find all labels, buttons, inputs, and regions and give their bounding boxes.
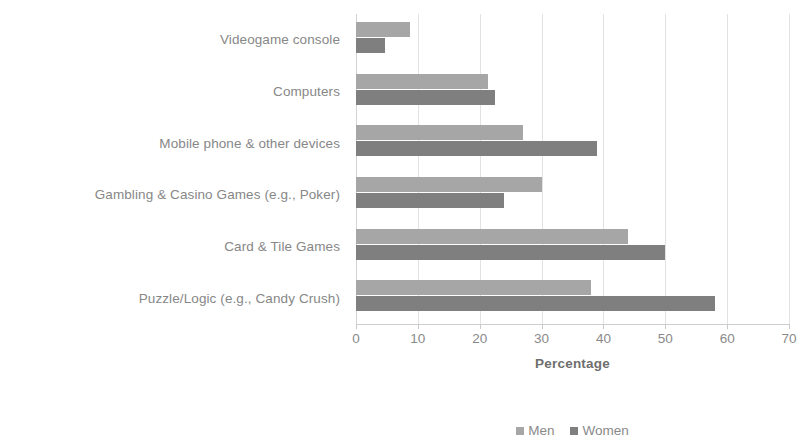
bar-group	[356, 14, 789, 66]
bar-group	[356, 66, 789, 118]
gridline-70	[789, 14, 790, 324]
bar-men	[356, 74, 488, 89]
x-tick-label: 30	[522, 331, 562, 346]
x-axis-title: Percentage	[356, 356, 789, 371]
legend-item[interactable]: Men	[516, 423, 554, 438]
tick-mark-60	[727, 324, 728, 329]
bar-group	[356, 272, 789, 324]
bar-group	[356, 221, 789, 273]
x-axis-line	[356, 324, 789, 325]
x-tick-label: 60	[707, 331, 747, 346]
bar-men	[356, 229, 628, 244]
x-tick-label: 20	[460, 331, 500, 346]
tick-mark-70	[789, 324, 790, 329]
category-label: Gambling & Casino Games (e.g., Poker)	[95, 169, 340, 221]
tick-mark-40	[603, 324, 604, 329]
bar-women	[356, 141, 597, 156]
tick-mark-20	[480, 324, 481, 329]
bar-men	[356, 280, 591, 295]
x-tick-label: 0	[336, 331, 376, 346]
x-tick-label: 70	[769, 331, 803, 346]
category-label: Mobile phone & other devices	[159, 117, 340, 169]
tick-mark-30	[542, 324, 543, 329]
legend-label: Women	[582, 423, 628, 438]
bar-women	[356, 38, 385, 53]
legend-swatch-icon	[570, 427, 578, 435]
category-label: Puzzle/Logic (e.g., Candy Crush)	[139, 272, 340, 324]
bar-men	[356, 22, 410, 37]
category-label: Card & Tile Games	[224, 221, 340, 273]
bar-groups	[356, 14, 789, 324]
x-tick-label: 40	[583, 331, 623, 346]
x-tick-label: 10	[398, 331, 438, 346]
bar-men	[356, 177, 542, 192]
tick-mark-10	[418, 324, 419, 329]
bar-women	[356, 193, 504, 208]
bar-women	[356, 90, 495, 105]
x-tick-label: 50	[645, 331, 685, 346]
tick-mark-50	[665, 324, 666, 329]
legend-swatch-icon	[516, 427, 524, 435]
bar-women	[356, 296, 715, 311]
legend-label: Men	[528, 423, 554, 438]
chart-legend: MenWomen	[356, 423, 789, 438]
bar-group	[356, 117, 789, 169]
bar-men	[356, 125, 523, 140]
plot-area	[356, 14, 789, 324]
tick-mark-0	[356, 324, 357, 329]
category-axis-labels: Videogame consoleComputersMobile phone &…	[0, 14, 348, 324]
legend-item[interactable]: Women	[570, 423, 628, 438]
category-label: Computers	[273, 66, 340, 118]
category-label: Videogame console	[220, 14, 340, 66]
bar-women	[356, 245, 665, 260]
bar-group	[356, 169, 789, 221]
bar-chart: Videogame consoleComputersMobile phone &…	[0, 0, 803, 447]
